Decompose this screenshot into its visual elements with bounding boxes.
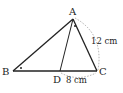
point-label-b: B <box>2 66 9 77</box>
measure-label-dc: 8 cm <box>66 75 87 85</box>
angle-mark-b <box>20 67 22 69</box>
point-label-a: A <box>68 6 77 17</box>
point-label-c: C <box>99 66 107 77</box>
angle-mark-a <box>74 25 76 27</box>
triangle-diagram: A B C D 12 cm 8 cm <box>0 0 123 93</box>
segment-ab <box>13 19 73 71</box>
measure-label-ac: 12 cm <box>91 36 117 46</box>
point-label-d: D <box>53 74 61 85</box>
segment-ad <box>60 19 73 71</box>
